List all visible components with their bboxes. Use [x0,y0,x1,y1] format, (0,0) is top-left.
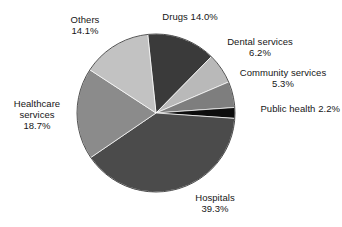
slice-label-dental-services: Dental services 6.2% [212,36,308,58]
slice-label-others-name: Others [54,14,116,25]
slice-label-others: Others 14.1% [54,14,116,36]
slice-label-dental-services-value: 6.2% [212,47,308,58]
slice-label-healthcare-services-name-1: Healthcare [4,98,70,109]
slice-label-drugs: Drugs 14.0% [144,11,236,22]
slice-label-healthcare-services-name-2: services [4,109,70,120]
slice-label-healthcare-services: Healthcare services 18.7% [4,98,70,132]
slice-label-hospitals: Hospitals 39.3% [178,192,252,214]
slice-label-others-value: 14.1% [54,25,116,36]
slice-label-healthcare-services-value: 18.7% [4,120,70,131]
pie-chart-figure: Others 14.1% Drugs 14.0% Dental services… [0,0,342,227]
slice-label-dental-services-name: Dental services [212,36,308,47]
slice-label-community-services-name: Community services [226,67,340,78]
slice-label-community-services: Community services 5.3% [226,67,340,89]
slice-label-hospitals-value: 39.3% [178,203,252,214]
slice-label-drugs-name-value: Drugs 14.0% [144,11,236,22]
slice-label-public-health: Public health 2.2% [216,103,340,114]
slice-label-hospitals-name: Hospitals [178,192,252,203]
slice-label-community-services-value: 5.3% [226,78,340,89]
slice-label-public-health-name-value: Public health 2.2% [216,103,340,114]
